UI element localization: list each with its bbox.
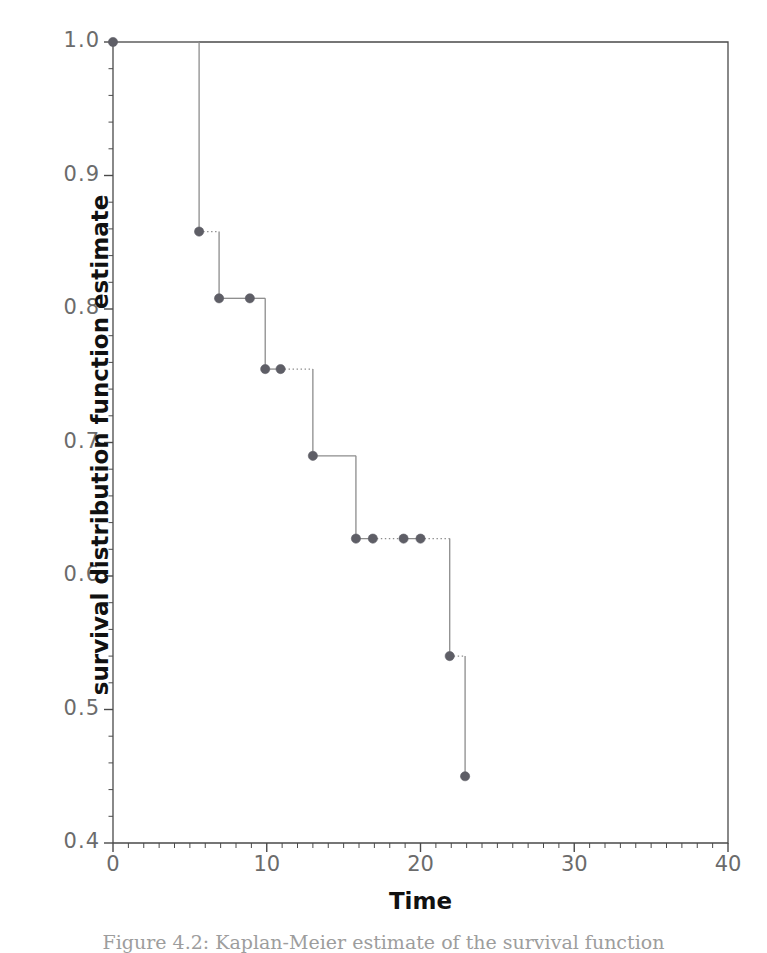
event-point-marker	[460, 772, 469, 781]
event-point-marker	[195, 227, 204, 236]
event-point-marker	[308, 451, 317, 460]
censored-point-marker	[368, 534, 377, 543]
event-point-marker	[351, 534, 360, 543]
x-tick-label: 10	[232, 852, 302, 876]
censored-point-marker	[245, 294, 254, 303]
event-point-marker	[445, 652, 454, 661]
censored-point-marker	[399, 534, 408, 543]
y-axis-title: survival distribution function estimate	[87, 45, 113, 845]
x-tick-label: 0	[78, 852, 148, 876]
event-point-marker	[261, 364, 270, 373]
survival-step-curve	[113, 42, 465, 776]
x-axis-tick-labels: 010203040	[0, 852, 767, 892]
x-tick-label: 40	[693, 852, 763, 876]
data-point-markers	[108, 37, 469, 780]
y-axis-tick-labels: 0.40.50.60.70.80.91.0	[0, 0, 100, 949]
x-axis-title: Time	[113, 888, 728, 914]
x-tick-label: 30	[539, 852, 609, 876]
event-point-marker	[214, 294, 223, 303]
x-axis-ticks	[113, 843, 728, 852]
plot-frame	[113, 42, 728, 843]
censored-point-marker	[416, 534, 425, 543]
censored-point-marker	[276, 364, 285, 373]
x-tick-label: 20	[386, 852, 456, 876]
figure-caption: Figure 4.2: Kaplan-Meier estimate of the…	[0, 931, 767, 953]
